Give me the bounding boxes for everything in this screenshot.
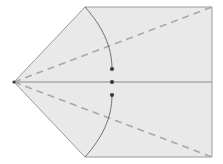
apex-vertex-dot: [12, 80, 15, 83]
figure-container: [0, 0, 223, 164]
upper-dot: [110, 67, 114, 71]
fold-diagram-svg: [0, 0, 223, 164]
center-dot: [110, 80, 114, 84]
lower-dot: [110, 93, 114, 97]
